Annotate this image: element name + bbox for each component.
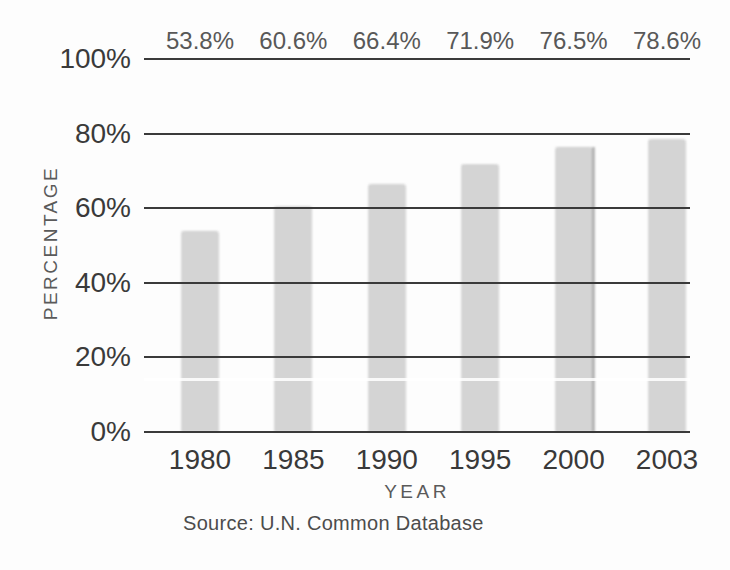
y-tick-label: 20% — [75, 341, 131, 373]
x-axis-tick-labels: 198019851990199520002003 — [144, 444, 690, 476]
source-note: Source: U.N. Common Database — [183, 512, 484, 535]
plot-area — [144, 59, 690, 432]
bar-value-label: 60.6% — [259, 27, 327, 55]
x-tick-label-1985: 1985 — [262, 444, 324, 476]
gridline-100 — [144, 58, 690, 60]
gridline-60 — [144, 207, 690, 209]
bar-value-label: 66.4% — [353, 27, 421, 55]
y-tick-label: 60% — [75, 192, 131, 224]
bar-chart-figure: PERCENTAGE 0%20%40%60%80%100% 53.8%60.6%… — [0, 0, 730, 570]
scan-artifact-dark-line — [592, 147, 595, 432]
y-tick-label: 0% — [91, 416, 131, 448]
x-tick-label-2003: 2003 — [636, 444, 698, 476]
scan-artifact-white-line — [144, 378, 690, 381]
bar-value-label: 76.5% — [540, 27, 608, 55]
gridline-80 — [144, 133, 690, 135]
y-tick-label: 80% — [75, 118, 131, 150]
bar-2003 — [648, 139, 686, 432]
bar-value-label: 53.8% — [166, 27, 234, 55]
y-tick-label: 40% — [75, 267, 131, 299]
bar-value-label: 71.9% — [446, 27, 514, 55]
bar-value-label: 78.6% — [633, 27, 701, 55]
bar-2000 — [555, 147, 593, 432]
x-axis-title: YEAR — [144, 481, 690, 503]
gridline-40 — [144, 282, 690, 284]
x-tick-label-1980: 1980 — [169, 444, 231, 476]
y-axis-tick-labels: 0%20%40%60%80%100% — [52, 59, 137, 432]
bar-1995 — [461, 164, 499, 432]
gridline-20 — [144, 356, 690, 358]
bar-value-labels: 53.8%60.6%66.4%71.9%76.5%78.6% — [144, 27, 690, 54]
gridline-0 — [144, 431, 690, 433]
y-tick-label: 100% — [59, 43, 131, 75]
bar-1990 — [368, 184, 406, 432]
x-tick-label-2000: 2000 — [542, 444, 604, 476]
bar-1980 — [181, 231, 219, 432]
bar-1985 — [274, 206, 312, 432]
x-tick-label-1995: 1995 — [449, 444, 511, 476]
x-tick-label-1990: 1990 — [356, 444, 418, 476]
